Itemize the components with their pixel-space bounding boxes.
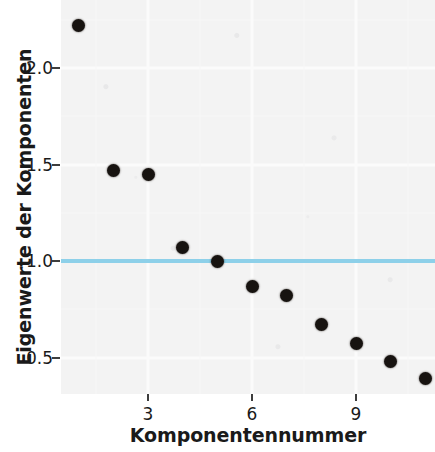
x-tick-mark: [251, 394, 253, 401]
kaiser-reference-line: [61, 259, 435, 263]
data-point: [419, 372, 432, 385]
gridline-horizontal-major: [61, 67, 435, 70]
x-tick-mark: [147, 394, 149, 401]
gridline-horizontal-minor: [61, 212, 435, 213]
gridline-vertical-major: [251, 0, 254, 394]
gridline-vertical-minor: [200, 0, 201, 394]
y-tick-mark: [52, 260, 60, 262]
x-tick-label: 6: [232, 404, 272, 424]
gridline-vertical-major: [355, 0, 358, 394]
gridline-vertical-minor: [95, 0, 96, 394]
data-point: [107, 164, 120, 177]
data-point: [246, 280, 259, 293]
data-point: [211, 255, 224, 268]
gridline-vertical-major: [147, 0, 150, 394]
data-point: [280, 289, 293, 302]
x-tick-mark: [355, 394, 357, 401]
x-tick-label: 9: [336, 404, 376, 424]
data-point: [315, 318, 328, 331]
gridline-horizontal-minor: [61, 116, 435, 117]
data-point: [142, 168, 155, 181]
y-tick-mark: [52, 164, 60, 166]
gridline-vertical-minor: [304, 0, 305, 394]
gridline-vertical-minor: [408, 0, 409, 394]
y-tick-mark: [52, 67, 60, 69]
data-point: [384, 355, 397, 368]
gridline-horizontal-minor: [61, 19, 435, 20]
data-point: [72, 19, 85, 32]
x-tick-label: 3: [128, 404, 168, 424]
gridline-horizontal-major: [61, 356, 435, 359]
plot-panel: [61, 0, 435, 394]
scree-plot-figure: 0.51.01.52.0 369 Eigenwerte der Komponen…: [0, 0, 435, 452]
gridline-horizontal-minor: [61, 309, 435, 310]
x-axis-title: Komponentennummer: [61, 424, 435, 446]
y-axis-title: Eigenwerte der Komponenten: [13, 7, 35, 407]
data-point: [176, 241, 189, 254]
y-tick-mark: [52, 357, 60, 359]
data-point: [350, 337, 363, 350]
